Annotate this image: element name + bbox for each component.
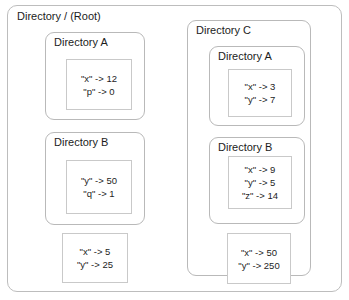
- binding-row: "p" -> 0: [83, 85, 114, 98]
- directory-b: Directory B "y" -> 50 "q" -> 1: [45, 132, 145, 225]
- binding-row: "y" -> 7: [245, 93, 276, 106]
- directory-b-label: Directory B: [54, 136, 108, 149]
- directory-a: Directory A "x" -> 12 "p" -> 0: [45, 32, 145, 120]
- directory-c-a: Directory A "x" -> 3 "y" -> 7: [209, 46, 305, 126]
- directory-root: Directory / (Root) Directory A "x" -> 12…: [7, 5, 342, 292]
- directory-root-label: Directory / (Root): [17, 10, 101, 23]
- binding-row: "x" -> 50: [241, 246, 277, 259]
- directory-c-a-frame: "x" -> 3 "y" -> 7: [228, 69, 292, 117]
- directory-c-a-label: Directory A: [218, 50, 272, 63]
- binding-row: "z" -> 14: [242, 189, 278, 202]
- directory-c-label: Directory C: [196, 24, 251, 37]
- binding-row: "y" -> 25: [77, 258, 113, 271]
- binding-row: "y" -> 50: [81, 174, 117, 187]
- binding-row: "x" -> 5: [80, 245, 111, 258]
- directory-a-label: Directory A: [54, 36, 108, 49]
- directory-c-b-label: Directory B: [218, 141, 272, 154]
- directory-b-frame: "y" -> 50 "q" -> 1: [66, 160, 132, 214]
- binding-row: "y" -> 5: [245, 176, 276, 189]
- binding-row: "x" -> 9: [245, 163, 276, 176]
- diagram-canvas: Directory / (Root) Directory A "x" -> 12…: [0, 0, 349, 300]
- directory-c: Directory C Directory A "x" -> 3 "y" -> …: [187, 20, 311, 276]
- directory-c-b-frame: "x" -> 9 "y" -> 5 "z" -> 14: [228, 156, 292, 209]
- binding-row: "q" -> 1: [83, 187, 114, 200]
- binding-row: "y" -> 250: [238, 259, 279, 272]
- binding-row: "x" -> 12: [81, 72, 117, 85]
- root-frame: "x" -> 5 "y" -> 25: [62, 233, 128, 283]
- directory-c-frame: "x" -> 50 "y" -> 250: [227, 233, 291, 284]
- directory-c-b: Directory B "x" -> 9 "y" -> 5 "z" -> 14: [209, 137, 305, 224]
- binding-row: "x" -> 3: [245, 80, 276, 93]
- directory-a-frame: "x" -> 12 "p" -> 0: [66, 59, 132, 110]
